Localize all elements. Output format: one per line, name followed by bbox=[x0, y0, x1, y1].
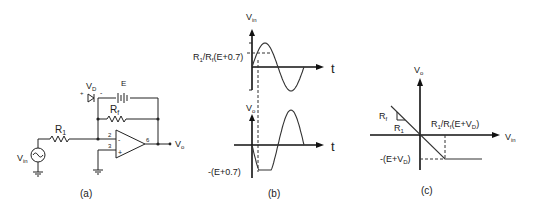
arrow-icon bbox=[316, 64, 324, 70]
panel-a-circuit: Vin R1 2 3 - + 6 Vo Rf + bbox=[17, 79, 185, 199]
sine-glyph-icon bbox=[33, 153, 43, 157]
vin-y-label: Vin bbox=[246, 12, 257, 23]
arrow-icon bbox=[417, 78, 423, 86]
r1-label: R1 bbox=[55, 124, 66, 136]
ground-icon bbox=[93, 170, 103, 174]
resistor-r1 bbox=[50, 136, 98, 142]
pin3-label: 3 bbox=[108, 143, 112, 149]
vo-y-label: Vo bbox=[246, 103, 256, 114]
output-terminal bbox=[169, 143, 172, 146]
slope-rf-label: Rf bbox=[379, 111, 388, 122]
threshold-label: R1/Rf(E+0.7) bbox=[193, 52, 243, 63]
arrow-icon bbox=[492, 132, 500, 138]
node-rf-left bbox=[96, 117, 99, 120]
rf-label: Rf bbox=[110, 104, 119, 116]
vo-y-label-c: Vo bbox=[414, 65, 424, 76]
vo-x-label: t bbox=[331, 139, 335, 154]
breakpoint-label: R1/Rf(E+VD) bbox=[431, 119, 479, 130]
pin6-label: 6 bbox=[146, 137, 150, 143]
clamp-label: -(E+0.7) bbox=[208, 167, 241, 177]
vd-minus-label: - bbox=[100, 89, 103, 96]
vo-label: Vo bbox=[175, 139, 185, 150]
pin2-label: 2 bbox=[108, 132, 112, 138]
vo-clipped-curve bbox=[252, 110, 304, 170]
transfer-curve bbox=[391, 106, 482, 159]
resistor-rf bbox=[98, 116, 158, 122]
panel-b-waveforms: t Vin R1/Rf(E+0.7) t Vo -(E+0.7) (b) bbox=[193, 12, 335, 199]
e-label: E bbox=[121, 79, 126, 88]
slope-r1-label: R1 bbox=[394, 123, 405, 134]
vin-label: Vin bbox=[17, 153, 28, 164]
opamp-plus-label: + bbox=[118, 149, 122, 156]
caption-a: (a) bbox=[80, 188, 92, 199]
vin-x-label-c: Vin bbox=[505, 132, 516, 143]
clamp-label-c: -(E+VD) bbox=[380, 154, 411, 165]
wire-source-r1 bbox=[38, 139, 50, 148]
wire-pin3-ground bbox=[98, 150, 116, 170]
vin-x-label: t bbox=[331, 61, 335, 76]
arrow-icon bbox=[249, 114, 255, 121]
node-rf-right bbox=[156, 117, 159, 120]
panel-c-transfer: Vo Vin Rf R1 R1/Rf(E+VD) -(E+VD) (c) bbox=[370, 65, 516, 196]
arrow-icon bbox=[316, 142, 324, 148]
opamp-minus-label: - bbox=[118, 136, 121, 143]
vd-label: VD bbox=[86, 81, 97, 92]
figure: Vin R1 2 3 - + 6 Vo Rf + bbox=[0, 0, 535, 214]
ground-icon bbox=[33, 162, 43, 176]
vd-plus-label: + bbox=[80, 90, 84, 96]
arrow-icon bbox=[249, 29, 255, 36]
caption-c: (c) bbox=[421, 185, 433, 196]
caption-b: (b) bbox=[268, 188, 280, 199]
